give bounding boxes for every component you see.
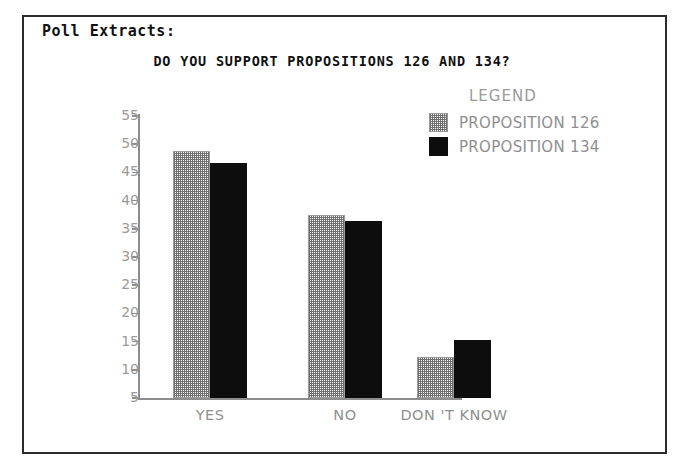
solid-black-swatch-icon — [429, 137, 448, 156]
legend-item-label: PROPOSITION 126 — [459, 114, 600, 132]
y-tick-label: 40 — [105, 193, 139, 207]
bar — [345, 221, 382, 398]
bar — [308, 215, 345, 398]
bar — [417, 357, 454, 398]
y-tick-label: 25 — [105, 277, 139, 291]
x-axis-label: YES — [143, 407, 277, 423]
legend-item-label: PROPOSITION 134 — [459, 138, 600, 156]
y-tick-label: 15 — [105, 334, 139, 348]
bar — [210, 163, 247, 398]
x-axis-label: DON 'T KNOW — [387, 407, 521, 423]
bar — [173, 151, 210, 398]
y-tick-label: 5 — [105, 390, 139, 404]
bar-chart: DO YOU SUPPORT PROPOSITIONS 126 AND 134?… — [22, 15, 667, 454]
legend-title: LEGEND — [469, 87, 537, 105]
y-tick-label: 50 — [105, 136, 139, 150]
y-tick-label: 45 — [105, 164, 139, 178]
plot-area: 555045403530252015105 YESNODON 'T KNOW — [22, 15, 667, 454]
y-tick-label: 35 — [105, 221, 139, 235]
x-axis-line — [138, 398, 462, 400]
bar — [454, 340, 491, 398]
screenshot-canvas: Poll Extracts: DO YOU SUPPORT PROPOSITIO… — [0, 0, 685, 469]
hatched-gray-swatch-icon — [429, 113, 448, 132]
y-tick-label: 10 — [105, 362, 139, 376]
y-tick-label: 55 — [105, 108, 139, 122]
y-tick-label: 30 — [105, 249, 139, 263]
y-tick-label: 20 — [105, 305, 139, 319]
